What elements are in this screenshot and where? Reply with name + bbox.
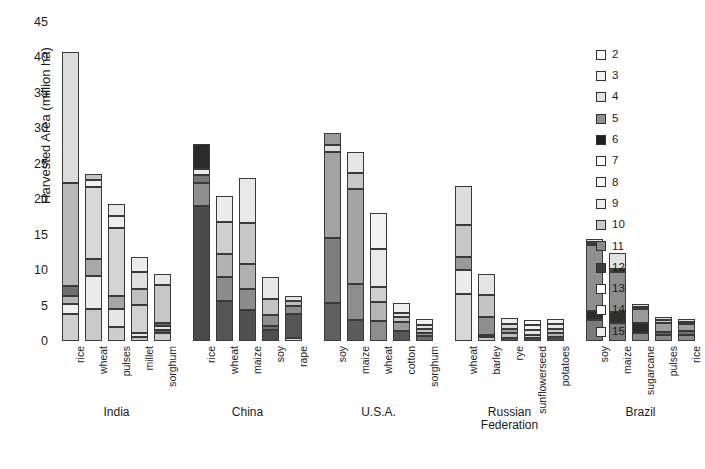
bar-segment [678,331,695,335]
bar-segment [370,287,387,302]
legend-label: 11 [612,241,624,253]
bar-segment [239,178,256,223]
x-tick-label: cotton [406,346,417,375]
x-tick-label: pulses [121,346,132,376]
bar-segment [216,254,233,277]
bar-segment [154,285,171,323]
x-tick-label: wheat [383,346,394,374]
bar-segment [455,186,472,224]
y-tick-label: 0 [41,335,57,348]
legend-label: 5 [612,113,618,125]
legend-label: 10 [612,219,625,231]
y-tick-label: 40 [34,51,57,64]
legend-label: 9 [612,198,618,210]
legend-label: 14 [612,304,625,316]
legend: 23456789101112131415 [596,44,648,342]
legend-label: 7 [612,155,618,167]
stacked-bar [478,274,495,341]
bar-segment [131,289,148,305]
legend-label: 2 [612,49,618,61]
bar-segment [285,306,302,315]
x-tick-label: wheat [468,346,479,374]
legend-swatch [596,241,606,251]
stacked-bar [262,277,279,342]
legend-item[interactable]: 6 [596,129,648,150]
legend-item[interactable]: 10 [596,214,648,235]
legend-swatch [596,284,606,294]
y-tick-label: 35 [34,87,57,100]
group-label: Brazil [556,406,705,419]
stacked-bar [678,319,695,341]
x-tick-label: rice [691,346,702,363]
bar-segment [62,286,79,297]
bar-segment [393,313,410,317]
legend-swatch [596,305,606,315]
bar-segment [239,264,256,288]
bar-segment [85,174,102,180]
bar-segment [501,333,518,338]
bar-segment [547,337,564,341]
bar-segment [655,317,672,321]
legend-swatch [596,50,606,60]
bar-segment [524,338,541,341]
bar-segment [455,225,472,258]
bar-segment [239,310,256,341]
y-tick-label: 20 [34,193,57,206]
bar-segment [239,223,256,264]
legend-item[interactable]: 9 [596,193,648,214]
y-tick-label: 30 [34,122,57,135]
legend-swatch [596,114,606,124]
bar-segment [393,317,410,322]
y-tick-label: 25 [34,158,57,171]
legend-label: 4 [612,91,618,103]
bar-segment [154,330,171,333]
bar-segment [347,284,364,320]
legend-item[interactable]: 15 [596,321,648,342]
bar-segment [655,332,672,336]
legend-item[interactable]: 5 [596,108,648,129]
bar-segment [347,320,364,341]
stacked-bar [524,320,541,341]
bar-segment [62,183,79,286]
bar-segment [239,289,256,310]
bar-segment [678,335,695,341]
x-tick-label: maize [622,346,633,374]
legend-label: 3 [612,70,618,82]
stacked-bar [216,196,233,341]
bar-segment [154,333,171,342]
legend-item[interactable]: 7 [596,150,648,171]
bar-segment [347,173,364,189]
legend-item[interactable]: 8 [596,172,648,193]
legend-item[interactable]: 3 [596,65,648,86]
bar-segment [416,325,433,329]
legend-item[interactable]: 11 [596,236,648,257]
stacked-bar [655,317,672,341]
x-tick-label: barley [491,346,502,375]
x-tick-label: millet [144,346,155,371]
bar-segment [324,133,341,145]
bar-segment [370,321,387,341]
stacked-bar [370,213,387,341]
bar-segment [347,152,364,173]
bar-segment [370,302,387,321]
x-tick-label: rice [75,346,86,363]
legend-item[interactable]: 4 [596,87,648,108]
bar-segment [678,319,695,322]
legend-swatch [596,220,606,230]
bar-segment [62,52,79,183]
y-tick-label: 45 [34,16,57,29]
legend-item[interactable]: 2 [596,44,648,65]
legend-item[interactable]: 12 [596,257,648,278]
legend-swatch [596,156,606,166]
stacked-bar [154,274,171,341]
bar-segment [370,249,387,287]
bar-segment [108,228,125,296]
bar-segment [85,309,102,341]
legend-item[interactable]: 14 [596,300,648,321]
bar-segment [370,213,387,248]
bar-segment [678,322,695,324]
legend-item[interactable]: 13 [596,278,648,299]
x-tick-label: soy [599,346,610,362]
y-tick-label: 10 [34,264,57,277]
